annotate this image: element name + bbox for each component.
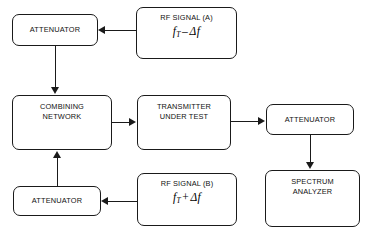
arrowhead-attenuator-right-to-spectrum [306, 162, 314, 169]
edge-rf-b-to-attenuator-bottom [108, 201, 137, 202]
formula-delta: Δf [190, 191, 201, 203]
edge-attenuator-top-to-combining [55, 46, 56, 88]
node-spectrum-analyzer[interactable]: SPECTRUM ANALYZER [265, 170, 360, 227]
edge-transmitter-to-attenuator-right [231, 121, 259, 122]
edge-attenuator-bottom-to-combining [57, 158, 58, 186]
arrowhead-attenuator-bottom-to-combining [53, 151, 61, 158]
formula-rf-signal-b: fT+Δf [173, 191, 201, 207]
edge-rf-a-to-attenuator-top [105, 30, 136, 31]
formula-rf-signal-a: fT–Δf [173, 25, 200, 41]
formula-operator: – [181, 25, 190, 37]
node-rf-signal-a[interactable]: RF SIGNAL (A) fT–Δf [136, 7, 237, 59]
node-label: RF SIGNAL (A) [160, 13, 213, 23]
arrowhead-transmitter-to-attenuator-right [258, 117, 265, 125]
formula-operator: + [181, 191, 191, 203]
formula-subscript: T [176, 29, 180, 38]
figure-caption [0, 234, 373, 241]
edge-combining-to-transmitter [112, 122, 130, 123]
node-label: COMBINING NETWORK [40, 96, 84, 121]
arrowhead-combining-to-transmitter [129, 118, 136, 126]
node-transmitter-under-test[interactable]: TRANSMITTER UNDER TEST [137, 95, 231, 150]
block-diagram-canvas: ATTENUATOR RF SIGNAL (A) fT–Δf COMBINING… [0, 0, 373, 241]
node-label: TRANSMITTER UNDER TEST [157, 96, 211, 121]
node-attenuator-right[interactable]: ATTENUATOR [266, 104, 354, 135]
node-label: ATTENUATOR [32, 196, 82, 206]
node-combining-network[interactable]: COMBINING NETWORK [12, 95, 112, 150]
node-attenuator-bottom[interactable]: ATTENUATOR [13, 186, 101, 216]
node-label: ATTENUATOR [285, 115, 335, 125]
edge-attenuator-right-to-spectrum [310, 135, 311, 163]
node-content: RF SIGNAL (A) fT–Δf [160, 8, 213, 40]
formula-delta: Δf [190, 25, 201, 37]
arrowhead-rf-a-to-attenuator-top [98, 26, 105, 34]
node-label: SPECTRUM ANALYZER [291, 171, 334, 196]
arrowhead-rf-b-to-attenuator-bottom [101, 197, 108, 205]
arrowhead-attenuator-top-to-combining [51, 87, 59, 94]
node-attenuator-top[interactable]: ATTENUATOR [12, 14, 98, 46]
node-rf-signal-b[interactable]: RF SIGNAL (B) fT+Δf [137, 173, 237, 226]
node-content: RF SIGNAL (B) fT+Δf [161, 174, 214, 206]
node-label: ATTENUATOR [30, 25, 80, 35]
node-label: RF SIGNAL (B) [161, 179, 214, 189]
